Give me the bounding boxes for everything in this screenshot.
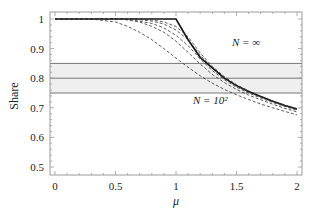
x-tick-label: 0.5 xyxy=(109,180,123,192)
y-tick-label: 0.7 xyxy=(30,102,44,114)
y-tick-label: 0.8 xyxy=(30,72,44,84)
y-axis-label: Share xyxy=(7,82,21,109)
share-vs-mu-chart: 0.50.60.70.80.91 00.511.52 Share μ N = ∞… xyxy=(0,0,314,214)
x-axis-label: μ xyxy=(172,194,179,208)
x-tick-label: 2 xyxy=(294,180,300,192)
x-tick-label: 1.5 xyxy=(230,180,244,192)
y-tick-label: 0.5 xyxy=(30,161,44,173)
y-tick-label: 0.6 xyxy=(30,131,44,143)
confidence-band xyxy=(50,63,302,93)
x-tick-label: 1 xyxy=(173,180,179,192)
x-tick-labels: 00.511.52 xyxy=(52,180,300,192)
annotation-n-infinity: N = ∞ xyxy=(231,36,260,48)
y-tick-label: 0.9 xyxy=(30,43,44,55)
x-tick-label: 0 xyxy=(52,180,58,192)
y-tick-labels: 0.50.60.70.80.91 xyxy=(30,13,44,173)
annotation-n-100: N = 10² xyxy=(192,94,228,106)
y-tick-label: 1 xyxy=(39,13,45,25)
